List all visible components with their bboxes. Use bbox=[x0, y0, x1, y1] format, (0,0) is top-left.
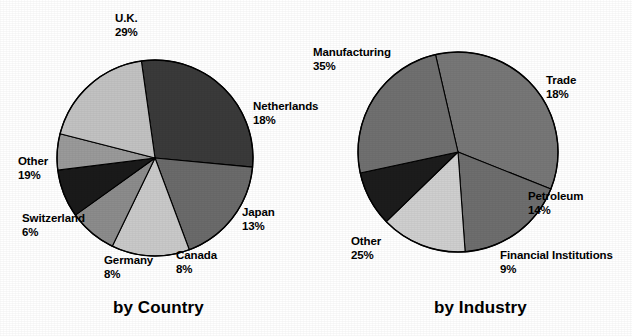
slice-label-uk-pct: 29% bbox=[115, 26, 138, 40]
slice-label-canada-name: Canada bbox=[176, 249, 217, 261]
pie-slice-u-k[interactable] bbox=[141, 60, 253, 167]
slice-label-financial-institutions-pct: 9% bbox=[500, 263, 613, 277]
slice-label-netherlands: Netherlands 18% bbox=[253, 100, 318, 127]
slice-label-other-industry-pct: 25% bbox=[351, 249, 381, 263]
slice-label-uk: U.K. 29% bbox=[115, 12, 138, 39]
slice-label-other-industry-name: Other bbox=[351, 235, 381, 247]
slice-label-petroleum: Petroleum 14% bbox=[528, 190, 583, 217]
slice-label-financial-institutions-name: Financial Institutions bbox=[500, 249, 613, 261]
slice-label-germany-name: Germany bbox=[104, 254, 153, 266]
slice-label-japan: Japan 13% bbox=[242, 206, 275, 233]
slice-label-japan-name: Japan bbox=[242, 206, 275, 218]
chart-caption-by-industry: by Industry bbox=[434, 298, 527, 318]
slice-label-financial-institutions: Financial Institutions 9% bbox=[500, 249, 613, 276]
slice-label-other-country-pct: 19% bbox=[18, 169, 48, 183]
slice-label-other-country: Other 19% bbox=[18, 155, 48, 182]
slice-label-uk-name: U.K. bbox=[115, 12, 138, 24]
pie-country-canvas bbox=[0, 0, 316, 290]
slice-label-manufacturing-name: Manufacturing bbox=[313, 46, 391, 58]
slice-label-switzerland-name: Switzerland bbox=[22, 212, 85, 224]
pie-chart-by-country: U.K. 29% Netherlands 18% Japan 13% Canad… bbox=[0, 0, 316, 336]
slice-label-netherlands-name: Netherlands bbox=[253, 100, 318, 112]
slice-label-switzerland: Switzerland 6% bbox=[22, 212, 85, 239]
slice-label-trade-pct: 18% bbox=[546, 88, 576, 102]
slice-label-canada-pct: 8% bbox=[176, 263, 217, 277]
chart-caption-by-country: by Country bbox=[113, 298, 204, 318]
slice-label-manufacturing: Manufacturing 35% bbox=[313, 46, 391, 73]
slice-label-petroleum-name: Petroleum bbox=[528, 190, 583, 202]
slice-label-switzerland-pct: 6% bbox=[22, 226, 85, 240]
slice-label-other-country-name: Other bbox=[18, 155, 48, 167]
slice-label-petroleum-pct: 14% bbox=[528, 204, 583, 218]
slice-label-trade-name: Trade bbox=[546, 74, 576, 86]
slice-label-japan-pct: 13% bbox=[242, 220, 275, 234]
slice-label-germany-pct: 8% bbox=[104, 268, 153, 282]
figure-root: U.K. 29% Netherlands 18% Japan 13% Canad… bbox=[0, 0, 632, 336]
slice-label-trade: Trade 18% bbox=[546, 74, 576, 101]
slice-label-other-industry: Other 25% bbox=[351, 235, 381, 262]
slice-label-germany: Germany 8% bbox=[104, 254, 153, 281]
slice-label-netherlands-pct: 18% bbox=[253, 114, 318, 128]
slice-label-canada: Canada 8% bbox=[176, 249, 217, 276]
slice-label-manufacturing-pct: 35% bbox=[313, 60, 391, 74]
